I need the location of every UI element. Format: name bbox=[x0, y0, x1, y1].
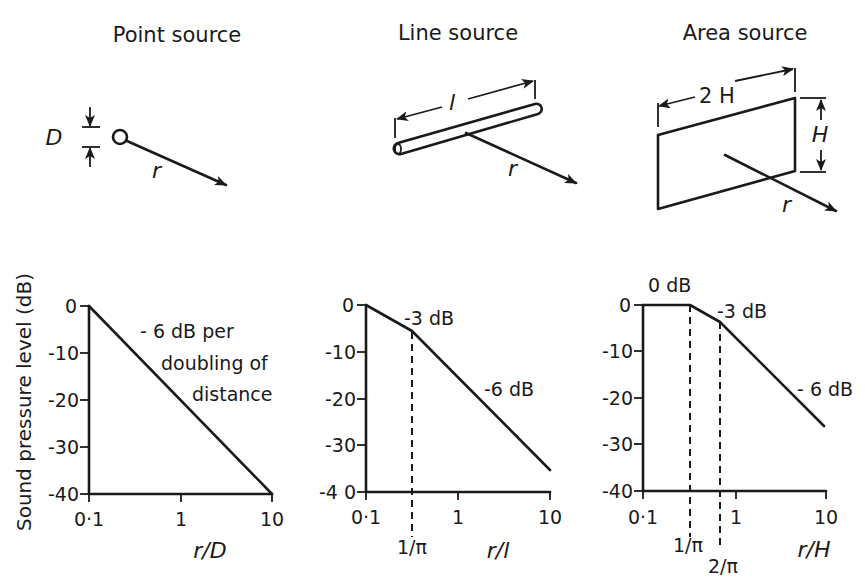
break-label: 1/π bbox=[397, 536, 427, 558]
dimension-2h-label: 2 H bbox=[699, 84, 735, 108]
chart-area-source: 0 -10 -20 -30 -40 0·1 1 10 1/π 2/π 0 dB … bbox=[602, 274, 853, 577]
data-line bbox=[643, 305, 824, 426]
line-source-rod bbox=[394, 104, 542, 154]
annotation: -6 dB bbox=[484, 378, 534, 400]
point-source-circle bbox=[113, 130, 127, 144]
break-label: 2/π bbox=[708, 555, 738, 577]
x-tick: 10 bbox=[260, 508, 284, 530]
panel-title-point: Point source bbox=[113, 23, 242, 47]
x-tick: 0·1 bbox=[351, 506, 381, 528]
y-tick: -20 bbox=[325, 388, 356, 410]
annotation: - 6 dB bbox=[797, 378, 853, 400]
y-tick: -20 bbox=[48, 389, 79, 411]
area-source-plane bbox=[658, 98, 795, 209]
radius-label: r bbox=[508, 156, 519, 181]
x-tick: 10 bbox=[814, 506, 838, 528]
y-tick: -40 bbox=[602, 480, 633, 502]
point-source-sketch: D r bbox=[46, 107, 226, 185]
radius-label: r bbox=[152, 158, 163, 183]
panel-title-line: Line source bbox=[398, 21, 518, 45]
x-tick: 10 bbox=[538, 506, 562, 528]
chart-point-source: 0 -10 -20 -30 -40 0·1 1 10 - 6 dB per do… bbox=[48, 295, 284, 563]
y-tick: -10 bbox=[602, 340, 633, 362]
x-tick: 0·1 bbox=[628, 506, 658, 528]
x-tick: 1 bbox=[730, 506, 742, 528]
dimension-l-label: l bbox=[449, 90, 455, 115]
y-tick: -20 bbox=[602, 387, 633, 409]
x-tick: 1 bbox=[175, 508, 187, 530]
y-tick: -10 bbox=[48, 342, 79, 364]
y-tick: -30 bbox=[325, 434, 356, 456]
radius-arrow bbox=[725, 155, 836, 211]
radius-arrow bbox=[127, 141, 226, 185]
x-axis-label: r/D bbox=[193, 538, 226, 563]
chart-line-source: 0 -10 -20 -30 -4 0 0·1 1 10 1/π -3 dB -6… bbox=[319, 294, 562, 563]
dimension-h-label: H bbox=[812, 122, 829, 147]
annotation: -3 dB bbox=[717, 300, 767, 322]
y-tick: -30 bbox=[602, 433, 633, 455]
panel-title-area: Area source bbox=[683, 21, 808, 45]
y-tick: 0 bbox=[65, 295, 77, 317]
annotation: -3 dB bbox=[404, 307, 454, 329]
annotation: - 6 dB per bbox=[140, 320, 234, 342]
area-source-sketch: 2 H H r bbox=[658, 68, 836, 217]
radius-arrow bbox=[466, 133, 576, 183]
y-tick: -40 bbox=[48, 483, 79, 505]
radius-label: r bbox=[782, 192, 793, 217]
annotation: distance bbox=[192, 383, 273, 405]
dimension-d-label: D bbox=[46, 125, 63, 150]
x-tick: 0·1 bbox=[74, 508, 104, 530]
annotation: doubling of bbox=[161, 352, 269, 374]
x-axis-label: r/l bbox=[487, 538, 510, 563]
x-tick: 1 bbox=[452, 506, 464, 528]
x-axis-label: r/H bbox=[798, 537, 831, 562]
sound-source-diagram: Point source Line source Area source D r… bbox=[0, 0, 865, 586]
line-source-sketch: l r bbox=[394, 80, 576, 183]
y-tick: -4 0 bbox=[319, 481, 356, 503]
y-tick: -10 bbox=[325, 341, 356, 363]
break-label: 1/π bbox=[673, 534, 703, 556]
y-tick: 0 bbox=[342, 294, 354, 316]
y-tick: -30 bbox=[48, 436, 79, 458]
annotation: 0 dB bbox=[648, 274, 691, 296]
y-axis-label: Sound pressure level (dB) bbox=[12, 273, 36, 531]
y-tick: 0 bbox=[619, 294, 631, 316]
